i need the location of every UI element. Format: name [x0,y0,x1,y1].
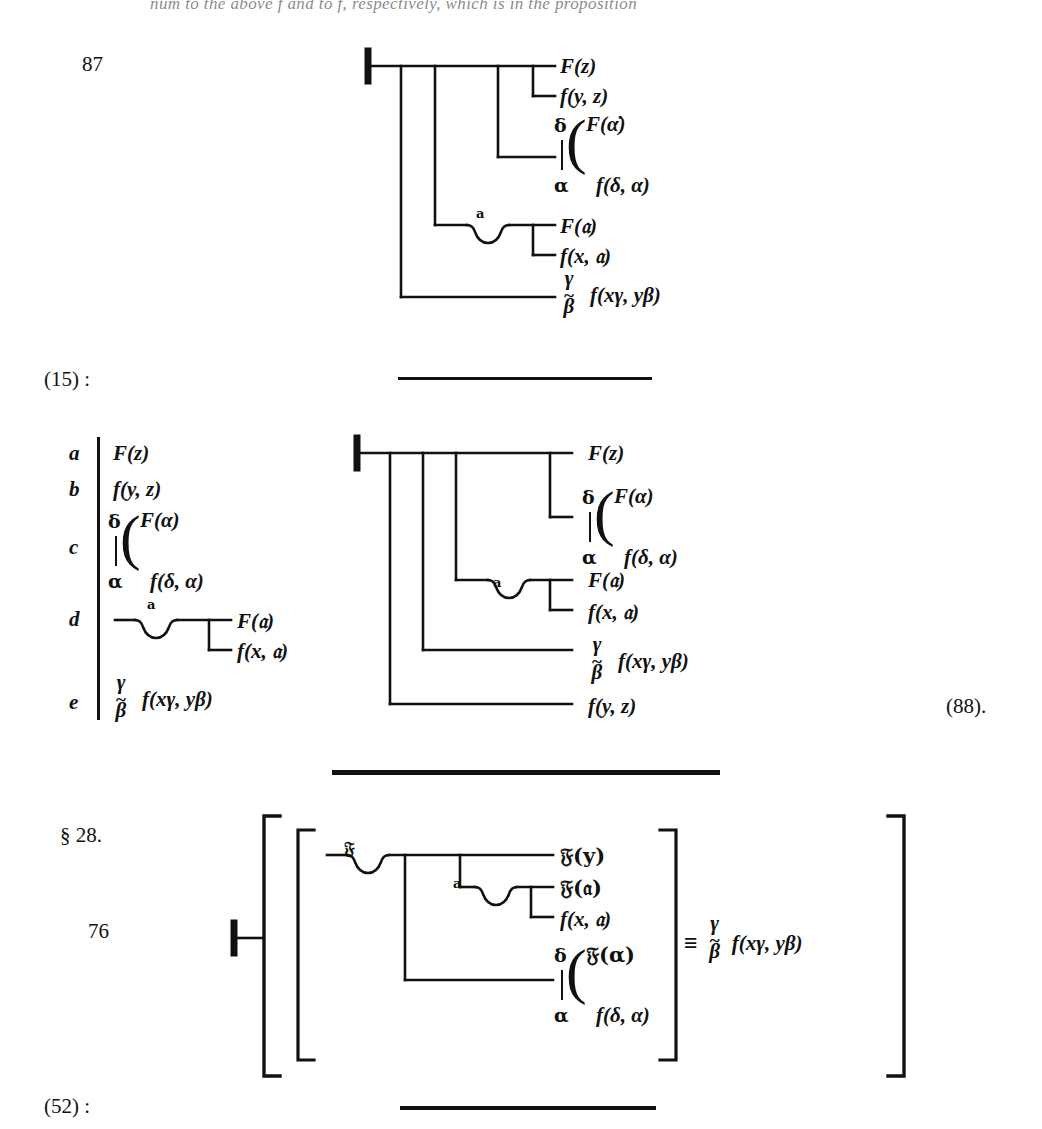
delta-alpha-operator-icon: δ α ( [552,118,586,192]
label-87-f-y-z: f(y, z) [560,84,608,109]
formula-number-76: 76 [88,919,109,944]
operator-paren-icon: ( [594,482,615,544]
reference-52: (52) : [44,1094,90,1119]
legend-c-f-delta-alpha: f(δ, α) [150,569,204,594]
legend-d-svg [113,602,243,662]
delta-alpha-operator-icon-76: δ α ( [552,948,586,1022]
label-88-F-z: F(z) [588,441,624,466]
legend-d-F-gothic-a: F(𝔞) [237,609,274,634]
legend-key-d: d [69,607,80,632]
label-88-second-level-operator: δ α ( F(α) f(δ, α) [580,490,614,564]
label-76-f-x-gothic-a: f(x, 𝔞) [560,907,611,932]
label-88-F-alpha: F(α) [614,484,654,509]
identity-symbol: ≡ [684,930,698,957]
operator-bar [115,536,117,566]
label-76-frak-F-y: 𝔉(y) [560,843,605,868]
label-87-F-alpha-dot: F(α̇) [586,112,626,137]
operator-paren-icon: ( [566,940,587,1002]
delta-glyph: δ [582,486,595,508]
delta-glyph: δ [108,510,121,532]
label-87-second-level-operator: δ α ( F(α̇) f(δ, α) [552,118,586,192]
label-87-F-z: F(z) [560,54,596,79]
reference-88: (88). [946,694,986,719]
outer-bracket-right [888,816,904,1076]
label-88-f-delta-alpha: f(δ, α) [624,545,678,570]
legend-label-c: δ α ( F(α) f(δ, α) [106,514,140,588]
legend-d-f-x-gothic-a: f(x, 𝔞) [237,639,288,664]
operator-bar [561,140,563,170]
section-number-28: § 28. [60,823,102,848]
operator-bar [561,970,563,1000]
label-88-gamma-beta-row: γ ~ β f(xγ, yβ) [586,638,689,690]
gamma-beta-operator-icon: γ ~ β [558,272,580,324]
beta-glyph: β [116,698,127,723]
label-88-f-y-z: f(y, z) [588,694,636,719]
operator-paren-icon: ( [120,506,141,568]
beta-glyph: β [564,294,575,319]
separator-rule-2 [332,770,720,775]
legend-d-quantifier-letter: a [147,597,155,612]
label-87-gamma-beta-row: γ ~ β f(xγ, yβ) [558,272,661,324]
cut-off-text-line: num to the above f and to f, respectivel… [150,0,930,14]
legend-key-b: b [69,477,80,502]
inner-bracket-left [298,830,314,1060]
outer-bracket-left [264,816,280,1076]
delta-alpha-operator-icon-legend: δ α ( [106,514,140,588]
operator-bar [589,512,591,542]
legend-label-e: γ ~ β f(xγ, yβ) [110,676,213,728]
quantifier-letter-frak-F-76: 𝔉 [344,838,355,858]
legend-key-c: c [69,535,78,560]
alpha-glyph: α [582,546,597,568]
gamma-beta-operator-icon-76: γ ~ β [704,917,726,969]
label-88-f-x-gothic-a: f(x, 𝔞) [588,600,639,625]
legend-e-f-xgamma-ybeta: f(xγ, yβ) [142,687,213,711]
delta-alpha-operator-icon-88: δ α ( [580,490,614,564]
label-87-f-xgamma-ybeta: f(xγ, yβ) [590,283,661,307]
quantifier-letter-88: a [493,575,501,590]
label-88-f-xgamma-ybeta: f(xγ, yβ) [618,649,689,673]
quantifier-letter-87: a [476,206,484,221]
label-76-f-xgamma-ybeta: f(xγ, yβ) [732,931,803,956]
gamma-beta-operator-icon-legend: γ ~ β [110,676,132,728]
label-87-f-delta-alpha: f(δ, α) [596,173,650,198]
legend-c-F-alpha: F(α) [140,508,180,533]
reference-15: (15) : [44,367,90,392]
legend-key-e: e [69,690,78,715]
delta-glyph: δ [554,944,567,966]
operator-paren-icon: ( [566,110,587,172]
legend-label-b: f(y, z) [113,477,161,502]
separator-rule-3 [400,1106,656,1110]
legend-label-a: F(z) [113,441,149,466]
label-76-f-delta-alpha: f(δ, α) [596,1003,650,1028]
equivalence-expression-76: ≡ γ ~ β f(xγ, yβ) [684,917,802,969]
label-87-F-gothic-a: F(𝔞) [560,214,597,239]
label-88-F-gothic-a: F(𝔞) [588,568,625,593]
beta-glyph: β [592,660,603,685]
label-76-frak-F-gothic-a: 𝔉(𝔞) [560,875,602,900]
alpha-glyph: α [108,570,123,592]
inner-bracket-right [660,830,676,1060]
separator-rule-1 [398,377,652,380]
delta-glyph: δ [554,114,567,136]
beta-glyph: β [709,939,720,964]
legend-diagram-d [113,602,243,662]
gamma-beta-operator-icon-88: γ ~ β [586,638,608,690]
quantifier-letter-a-76: a [453,876,461,891]
formula-number-87: 87 [82,52,103,77]
legend-vertical-bar [97,437,100,720]
legend-key-a: a [69,441,80,466]
label-76-second-level-operator: δ α ( 𝔉(α) f(δ, α) [552,948,586,1022]
label-76-frak-F-alpha: 𝔉(α) [586,942,635,967]
alpha-glyph: α [554,174,569,196]
alpha-glyph: α [554,1004,569,1026]
